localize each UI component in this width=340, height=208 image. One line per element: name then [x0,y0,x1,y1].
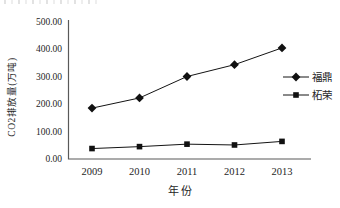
data-point-square [232,142,238,148]
legend: 福鼎 柘荣 [283,70,339,101]
y-tick-label: 100.00 [36,127,62,137]
data-point-diamond [278,44,287,53]
x-tick-label: 2010 [129,166,150,177]
y-tick-label: 500.00 [36,17,62,27]
x-tick-label: 2009 [82,166,103,177]
data-point-diamond [230,60,239,69]
legend-item-series-1: 福鼎 [283,70,339,83]
data-point-diamond [183,72,192,81]
legend-label-series-1: 福鼎 [312,69,332,84]
x-axis-title: 年份 [146,182,216,198]
x-tick-label: 2013 [272,166,293,177]
co2-emissions-line-chart: CO2排放量(万吨) 0.00100.00200.00300.00400.005… [0,0,340,208]
y-tick-label: 0.00 [45,154,62,164]
diamond-marker-icon [283,71,309,83]
legend-label-series-2: 柘荣 [312,87,332,102]
x-tick-label: 2012 [224,166,245,177]
axes-lines [69,20,312,159]
x-tick-label: 2011 [177,166,198,177]
plot-area: 0.00100.00200.00300.00400.00500.00200920… [0,0,340,208]
y-tick-label: 400.00 [36,44,62,54]
legend-item-series-2: 柘荣 [283,88,339,101]
y-tick-label: 300.00 [36,72,62,82]
data-point-square [279,139,285,145]
square-marker-icon [283,89,309,101]
data-point-diamond [88,104,97,113]
data-point-square [184,141,190,147]
data-point-diamond [135,94,144,103]
data-point-square [89,146,95,152]
y-tick-label: 200.00 [36,99,62,109]
data-point-square [137,144,143,150]
